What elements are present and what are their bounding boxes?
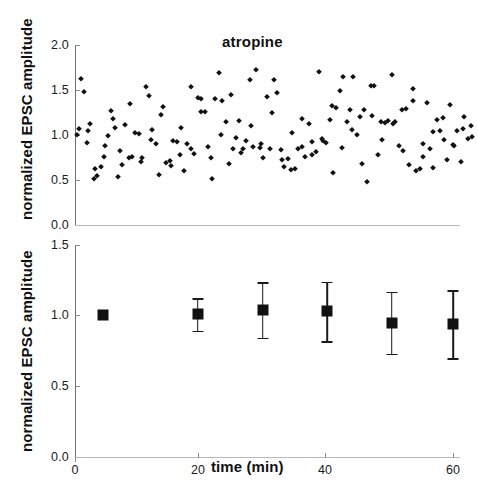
scatter-point bbox=[222, 118, 228, 124]
scatter-point bbox=[326, 117, 332, 123]
scatter-point bbox=[216, 70, 222, 76]
scatter-point bbox=[430, 165, 436, 171]
scatter-point bbox=[174, 139, 180, 145]
scatter-point bbox=[264, 94, 270, 100]
scatter-point bbox=[375, 152, 381, 158]
scatter-point bbox=[94, 172, 100, 178]
scatter-point bbox=[427, 146, 433, 152]
error-bar-cap-bottom bbox=[386, 354, 397, 356]
scatter-point bbox=[389, 121, 395, 127]
scatter-point bbox=[219, 98, 225, 104]
scatter-point bbox=[278, 147, 284, 153]
scatter-point bbox=[371, 82, 377, 88]
scatter-point bbox=[115, 174, 121, 180]
scatter-point bbox=[178, 125, 184, 131]
error-bar-cap-bottom bbox=[448, 358, 459, 360]
error-bar-cap-bottom bbox=[192, 331, 203, 333]
scatter-point bbox=[302, 153, 308, 159]
error-bar-cap-top bbox=[322, 282, 333, 284]
scatter-point bbox=[299, 116, 305, 122]
scatter-point bbox=[309, 139, 315, 145]
scatter-point bbox=[87, 121, 93, 127]
scatter-point bbox=[399, 148, 405, 154]
scatter-point bbox=[168, 162, 174, 168]
scatter-point bbox=[243, 138, 249, 144]
mean-marker bbox=[322, 306, 333, 317]
scatter-point bbox=[98, 164, 104, 170]
scatter-point bbox=[340, 74, 346, 80]
scatter-point bbox=[364, 179, 370, 185]
scatter-point bbox=[458, 159, 464, 165]
scatter-point bbox=[430, 129, 436, 135]
scatter-point bbox=[379, 137, 385, 143]
scatter-point bbox=[146, 93, 152, 99]
scatter-point bbox=[410, 86, 416, 92]
scatter-point bbox=[253, 67, 259, 73]
scatter-point bbox=[316, 69, 322, 75]
scatter-point bbox=[218, 132, 224, 138]
figure-root: atropine normalized EPSC amplitude 2.0 1… bbox=[0, 0, 478, 496]
scatter-point bbox=[468, 123, 474, 129]
scatter-point bbox=[285, 156, 291, 162]
mean-marker bbox=[192, 309, 203, 320]
scatter-point bbox=[136, 131, 142, 137]
scatter-point bbox=[127, 100, 133, 106]
scatter-point bbox=[205, 144, 211, 150]
scatter-point bbox=[101, 153, 107, 159]
scatter-point bbox=[149, 126, 155, 132]
scatter-point bbox=[339, 144, 345, 150]
scatter-point bbox=[158, 112, 164, 118]
scatter-point bbox=[343, 119, 349, 125]
scatter-point bbox=[268, 110, 274, 116]
scatter-point bbox=[250, 144, 256, 150]
scatter-point bbox=[177, 152, 183, 158]
scatter-point bbox=[357, 114, 363, 120]
error-bar-cap-top bbox=[192, 298, 203, 300]
mean-marker bbox=[448, 319, 459, 330]
mean-marker bbox=[386, 317, 397, 328]
scatter-point bbox=[420, 141, 426, 147]
scatter-point bbox=[122, 122, 128, 128]
scatter-point bbox=[228, 92, 234, 98]
scatter-point bbox=[81, 89, 87, 95]
scatter-point bbox=[181, 168, 187, 174]
scatter-point bbox=[437, 127, 443, 133]
scatter-point bbox=[354, 132, 360, 138]
scatter-point bbox=[229, 145, 235, 151]
scatter-point bbox=[359, 161, 365, 167]
scatter-point bbox=[191, 151, 197, 157]
scatter-point bbox=[142, 84, 148, 90]
scatter-point bbox=[188, 84, 194, 90]
scatter-point bbox=[78, 76, 84, 82]
scatter-point bbox=[102, 143, 108, 149]
error-bar-cap-top bbox=[386, 292, 397, 294]
scatter-point bbox=[440, 115, 446, 121]
scatter-point bbox=[198, 96, 204, 102]
error-bar-cap-bottom bbox=[322, 341, 333, 343]
error-bar-cap-bottom bbox=[257, 338, 268, 340]
scatter-point bbox=[349, 126, 355, 132]
scatter-point bbox=[330, 170, 336, 176]
scatter-point bbox=[74, 132, 80, 138]
scatter-point bbox=[248, 123, 254, 129]
error-bar-cap-top bbox=[257, 282, 268, 284]
scatter-point bbox=[153, 141, 159, 147]
scatter-point bbox=[281, 163, 287, 169]
scatter-point bbox=[233, 135, 239, 141]
scatter-point bbox=[361, 107, 367, 113]
scatter-point bbox=[236, 117, 242, 123]
scatter-point bbox=[84, 127, 90, 133]
bottom-panel: normalized EPSC amplitude 1.5 1.0 0.5 0.… bbox=[0, 232, 478, 496]
scatter-point bbox=[461, 114, 467, 120]
scatter-point bbox=[117, 148, 123, 154]
mean-marker bbox=[257, 305, 268, 316]
scatter-point bbox=[289, 130, 295, 136]
scatter-point bbox=[306, 121, 312, 127]
scatter-point bbox=[389, 72, 395, 78]
scatter-point bbox=[258, 141, 264, 147]
scatter-point bbox=[279, 157, 285, 163]
scatter-point bbox=[226, 161, 232, 167]
scatter-point bbox=[246, 77, 252, 83]
top-panel: atropine normalized EPSC amplitude 2.0 1… bbox=[0, 0, 478, 232]
scatter-point bbox=[447, 102, 453, 108]
